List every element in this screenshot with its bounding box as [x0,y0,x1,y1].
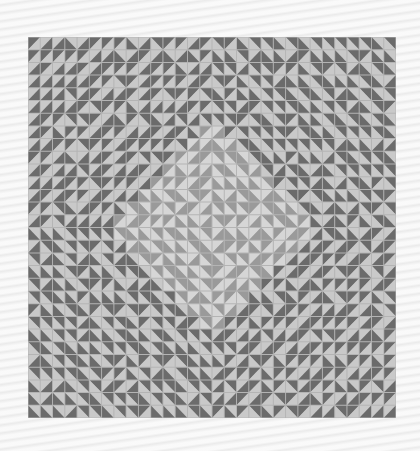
triangle-grid [28,37,396,418]
quilt-artwork [28,37,396,418]
